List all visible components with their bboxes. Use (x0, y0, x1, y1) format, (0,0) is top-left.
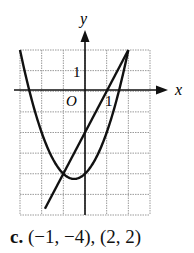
answer-caption: c. (−1, −4), (2, 2) (10, 226, 141, 248)
x-axis-label: x (174, 81, 182, 98)
x-tick-label: 1 (105, 93, 113, 109)
y-tick-label: 1 (73, 64, 81, 80)
caption-text: (−1, −4), (2, 2) (28, 226, 141, 247)
y-axis-label: y (78, 10, 88, 28)
caption-label: c. (10, 226, 23, 247)
line-curve (45, 50, 128, 209)
y-axis-arrow-icon (81, 30, 90, 42)
x-axis-arrow-icon (156, 86, 168, 95)
graph: x y O 1 1 (0, 0, 194, 225)
y-axis (81, 30, 90, 215)
origin-label: O (66, 93, 77, 109)
x-axis (14, 86, 168, 95)
